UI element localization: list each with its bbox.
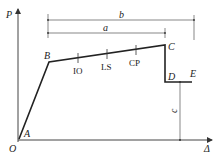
dimension-b-label: b [119, 9, 124, 20]
dimension-c-label: c [168, 108, 179, 113]
io-label: IO [73, 66, 83, 76]
point-d-label: D [167, 71, 176, 82]
point-c-label: C [168, 41, 175, 52]
dimension-a-label: a [103, 22, 108, 33]
point-b-label: B [44, 50, 50, 61]
cp-label: CP [129, 58, 140, 68]
point-e-label: E [189, 68, 196, 79]
delta-axis-label: Δ [203, 143, 210, 154]
force-deformation-diagram: P Δ O A B C D E IO LS CP b a c [0, 0, 220, 155]
point-a-label: A [23, 128, 31, 139]
p-axis-label: P [5, 9, 12, 20]
ls-label: LS [101, 62, 112, 72]
origin-label: O [9, 143, 16, 154]
